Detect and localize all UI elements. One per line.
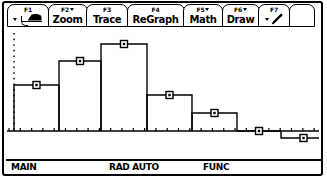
toolbar-fkey-label-f3: F3 <box>103 5 111 13</box>
histogram-bar <box>101 44 147 131</box>
plot-marker-center <box>302 137 304 139</box>
pencil-icon <box>270 13 283 26</box>
plot-marker-center <box>258 130 260 132</box>
chevron-down-icon[interactable] <box>205 8 209 11</box>
toolbar-fkey-label-f2: F2 <box>61 5 74 13</box>
toolbar-button-f1-tools[interactable]: F1 <box>7 4 49 27</box>
toolbar-button-f3-trace[interactable]: F3 Trace <box>86 4 128 27</box>
plot-markers <box>33 41 307 142</box>
toolbar-fkey-label-f7: F7 <box>270 5 278 13</box>
plot-marker-center <box>168 94 170 96</box>
fkey-text-f5: F5 <box>197 6 205 13</box>
toolbar: F1 F2 Zoom F3 Trace F4 ReGraph <box>7 4 319 27</box>
toolbar-label-math: Math <box>190 13 217 26</box>
histogram-bar <box>59 61 101 131</box>
fkey-text-f2: F2 <box>61 6 69 13</box>
toolbar-label-regraph: ReGraph <box>133 13 179 26</box>
plot-marker-center <box>35 84 37 86</box>
toolbar-label-draw: Draw <box>227 13 255 26</box>
chevron-down-icon[interactable] <box>243 8 247 11</box>
toolbar-button-f5-math[interactable]: F5 Math <box>183 4 223 27</box>
histogram-bar <box>14 85 59 131</box>
plot-marker-center <box>213 112 215 114</box>
status-angle-mode: RAD AUTO <box>109 162 159 172</box>
chevron-down-icon[interactable] <box>13 18 17 21</box>
toolbar-button-f4-regraph[interactable]: F4 ReGraph <box>127 4 185 27</box>
histogram-chart[interactable] <box>7 29 319 153</box>
toolbar-label-trace: Trace <box>93 13 121 26</box>
status-folder: MAIN <box>11 162 37 172</box>
graph-plot-area[interactable] <box>7 29 319 153</box>
histogram-bar <box>147 95 192 131</box>
toolbar-label-zoom: Zoom <box>53 13 83 26</box>
toolbar-fkey-label-f5: F5 <box>197 5 210 13</box>
toolbar-fkey-label-f4: F4 <box>152 5 160 13</box>
status-bar: MAIN RAD AUTO FUNC <box>7 162 319 174</box>
status-bar-divider <box>6 159 321 161</box>
toolbar-button-f6-draw[interactable]: F6 Draw <box>222 4 260 27</box>
plot-marker-center <box>79 60 81 62</box>
toolbar-fkey-label-f1: F1 <box>24 5 32 13</box>
fkey-text-f6: F6 <box>234 6 242 13</box>
toolbar-button-f7-pen[interactable]: F7 <box>258 4 290 27</box>
chevron-down-icon[interactable] <box>70 8 74 11</box>
toolbar-button-blank[interactable] <box>289 4 315 27</box>
chevron-down-icon[interactable] <box>265 18 269 21</box>
toolbar-button-f2-zoom[interactable]: F2 Zoom <box>48 4 88 27</box>
calculator-screen: F1 F2 Zoom F3 Trace F4 ReGraph <box>0 0 327 179</box>
plot-marker-center <box>123 43 125 45</box>
status-graph-mode: FUNC <box>203 162 229 172</box>
tools-icon <box>18 14 44 26</box>
toolbar-fkey-label-f6: F6 <box>234 5 247 13</box>
